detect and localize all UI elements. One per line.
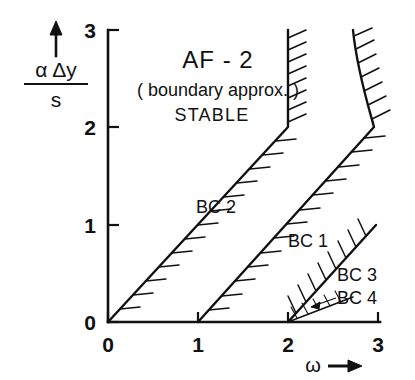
y-tick-label-3: 3 (84, 19, 96, 42)
x-tick-label-1: 1 (192, 333, 204, 356)
curve-label-bc2: BC 2 (196, 197, 236, 217)
up-arrow-icon (50, 21, 62, 56)
curve-label-bc1: BC 1 (288, 231, 328, 251)
y-axis-label-numerator: α Δy (35, 58, 77, 81)
x-axis-label-group: ω (305, 354, 362, 376)
y-tick-labels: 3 2 1 0 (84, 19, 96, 334)
x-axis-label: ω (305, 354, 321, 376)
curve-label-bc4: BC 4 (337, 288, 377, 308)
y-axis-label-denominator: s (51, 88, 62, 111)
x-tick-label-2: 2 (282, 333, 294, 356)
figure-subtitle: ( boundary approx. ) (137, 80, 299, 100)
stability-diagram-figure: α Δy s 3 2 1 0 (0, 0, 415, 380)
y-tick-label-0: 0 (84, 311, 96, 334)
right-arrow-icon-head (348, 360, 362, 372)
curve-label-bc3: BC 3 (337, 265, 377, 285)
y-tick-label-2: 2 (84, 116, 96, 139)
y-axis-label-group: α Δy s (24, 21, 88, 111)
y-tick-label-1: 1 (84, 214, 96, 237)
x-tick-label-0: 0 (102, 333, 114, 356)
figure-title: AF - 2 (182, 46, 253, 73)
title-block: AF - 2 ( boundary approx. ) STABLE (137, 46, 299, 125)
stability-annotation: STABLE (175, 105, 250, 125)
curve-bc2-path (108, 30, 288, 322)
chart-svg: α Δy s 3 2 1 0 (0, 0, 415, 380)
curve-bc2: BC 2 (108, 30, 306, 322)
x-tick-label-3: 3 (372, 333, 384, 356)
x-tick-labels: 0 1 2 3 (102, 333, 384, 356)
